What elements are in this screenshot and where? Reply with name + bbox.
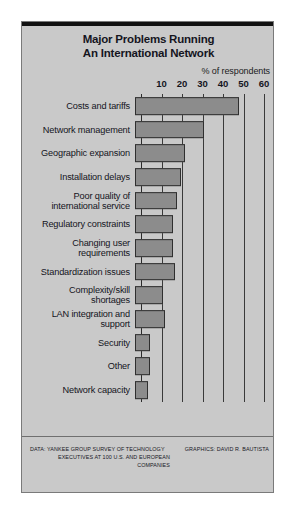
bar-row-label: Network management bbox=[22, 125, 135, 135]
bar-track bbox=[135, 189, 274, 213]
footer-source-line: DATA: YANKEE GROUP SURVEY OF TECHNOLOGY bbox=[30, 445, 170, 453]
bar bbox=[135, 192, 177, 210]
bar-row-label-line: LAN integration and bbox=[22, 309, 130, 319]
bar-track bbox=[135, 378, 274, 402]
title-line-1: Major Problems Running bbox=[22, 32, 274, 46]
bar-row: Changing userrequirements bbox=[22, 236, 274, 260]
bar bbox=[135, 287, 163, 305]
x-tick-label-50: 50 bbox=[238, 78, 249, 89]
footer-source-line: EXECUTIVES AT 100 U.S. AND EUROPEAN bbox=[30, 453, 170, 461]
bar bbox=[135, 239, 173, 257]
chart-title: Major Problems Running An International … bbox=[22, 32, 274, 60]
bar-row: Poor quality ofinternational service bbox=[22, 189, 274, 213]
bar-track bbox=[135, 260, 274, 284]
bar-row-label-line: requirements bbox=[22, 248, 130, 258]
bar-row: Other bbox=[22, 355, 274, 379]
bar bbox=[135, 310, 165, 328]
bar-track bbox=[135, 284, 274, 308]
bar-row: Complexity/skillshortages bbox=[22, 284, 274, 308]
axis-caption: % of respondents bbox=[22, 66, 270, 76]
bar-track bbox=[135, 355, 274, 379]
footer-source: DATA: YANKEE GROUP SURVEY OF TECHNOLOGYE… bbox=[30, 445, 170, 469]
x-tick-label-40: 40 bbox=[218, 78, 229, 89]
bar bbox=[135, 97, 239, 115]
bar-row: Costs and tariffs bbox=[22, 94, 274, 118]
bar bbox=[135, 215, 173, 233]
bar bbox=[135, 358, 150, 376]
title-line-2: An International Network bbox=[22, 46, 274, 60]
bar-row-label-line: Security bbox=[22, 338, 130, 348]
bar-row-label-line: Network capacity bbox=[22, 385, 130, 395]
bar-row-label: Other bbox=[22, 361, 135, 371]
top-rule bbox=[22, 22, 274, 26]
bar-row: LAN integration andsupport bbox=[22, 307, 274, 331]
bar-row-label: Security bbox=[22, 338, 135, 348]
bar-track bbox=[135, 141, 274, 165]
bar-row-label: Complexity/skillshortages bbox=[22, 285, 135, 305]
bar-row-label-line: support bbox=[22, 319, 130, 329]
bar-row-label: Changing userrequirements bbox=[22, 238, 135, 258]
bar-row-label-line: Complexity/skill bbox=[22, 285, 130, 295]
bar-track bbox=[135, 212, 274, 236]
bar bbox=[135, 168, 181, 186]
bar-track bbox=[135, 236, 274, 260]
bar bbox=[135, 334, 150, 352]
x-tick-label-60: 60 bbox=[259, 78, 270, 89]
bar-row-label: Network capacity bbox=[22, 385, 135, 395]
footer-source-line: COMPANIES bbox=[30, 461, 170, 469]
bar-row-label-line: shortages bbox=[22, 295, 130, 305]
bar-row-label-line: Costs and tariffs bbox=[22, 101, 130, 111]
bar-row-label-line: Poor quality of bbox=[22, 191, 130, 201]
bar-row: Network management bbox=[22, 118, 274, 142]
bar-row-label-line: Installation delays bbox=[22, 172, 130, 182]
bar-row-label-line: international service bbox=[22, 201, 130, 211]
x-tick-label-30: 30 bbox=[197, 78, 208, 89]
bar-track bbox=[135, 331, 274, 355]
bar-row-label: Standardization issues bbox=[22, 267, 135, 277]
x-axis-tick-labels: 102030405060 bbox=[141, 78, 274, 92]
bar-rows: Costs and tariffsNetwork managementGeogr… bbox=[22, 94, 274, 402]
x-tick-label-20: 20 bbox=[177, 78, 188, 89]
bar-row-label-line: Geographic expansion bbox=[22, 148, 130, 158]
bar-track bbox=[135, 94, 274, 118]
bar-row-label-line: Other bbox=[22, 361, 130, 371]
bar-row-label: Geographic expansion bbox=[22, 148, 135, 158]
chart-panel: Major Problems Running An International … bbox=[21, 21, 274, 493]
bar-row-label: Costs and tariffs bbox=[22, 101, 135, 111]
footer-credit: GRAPHICS: DAVID R. BAUTISTA bbox=[185, 445, 269, 453]
bar-row-label-line: Standardization issues bbox=[22, 267, 130, 277]
chart-footer: DATA: YANKEE GROUP SURVEY OF TECHNOLOGYE… bbox=[22, 436, 274, 492]
bar-row-label: Poor quality ofinternational service bbox=[22, 191, 135, 211]
bar-row-label-line: Changing user bbox=[22, 238, 130, 248]
bar-row-label: Regulatory constraints bbox=[22, 219, 135, 229]
bar-track bbox=[135, 165, 274, 189]
bar-row-label: LAN integration andsupport bbox=[22, 309, 135, 329]
bar bbox=[135, 121, 204, 139]
bar-row-label: Installation delays bbox=[22, 172, 135, 182]
bar-row: Geographic expansion bbox=[22, 141, 274, 165]
bar-row: Security bbox=[22, 331, 274, 355]
bar-track bbox=[135, 118, 274, 142]
bar-row-label-line: Network management bbox=[22, 125, 130, 135]
bar bbox=[135, 263, 175, 281]
x-tick-label-10: 10 bbox=[156, 78, 167, 89]
bar-track bbox=[135, 307, 274, 331]
bar bbox=[135, 381, 148, 399]
bar-row: Standardization issues bbox=[22, 260, 274, 284]
bar-row: Network capacity bbox=[22, 378, 274, 402]
bar bbox=[135, 144, 185, 162]
bar-row-label-line: Regulatory constraints bbox=[22, 219, 130, 229]
bar-row: Regulatory constraints bbox=[22, 212, 274, 236]
bar-row: Installation delays bbox=[22, 165, 274, 189]
